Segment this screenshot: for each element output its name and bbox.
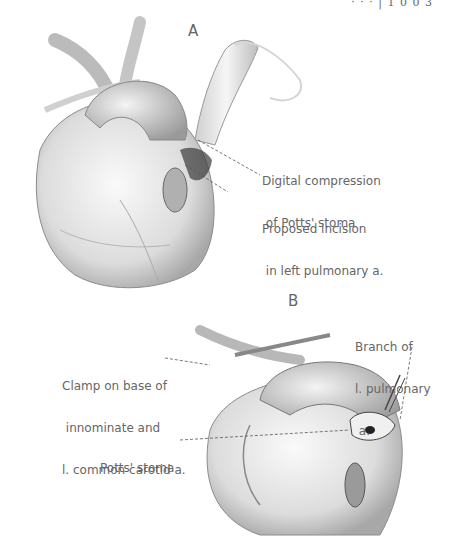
label-proposed-incision: Proposed incision in left pulmonary a. [262,194,383,292]
label-potts-stoma: Potts' stoma [100,433,174,489]
label-branch-lpa: Branch of l. pulmonary a. [355,312,431,452]
panel-b-letter: B [288,292,298,310]
panel-a-letter: A [188,22,198,40]
